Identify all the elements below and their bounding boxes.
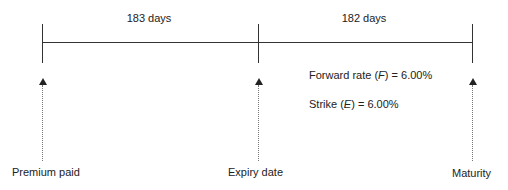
strike-label: Strike (E) = 6.00%	[309, 98, 399, 110]
point-label-expiry: Expiry date	[228, 166, 283, 178]
tick-start	[42, 24, 43, 63]
arrow-up-icon	[38, 78, 47, 161]
tick-maturity	[472, 24, 473, 63]
tick-expiry	[258, 24, 259, 63]
point-label-premium: Premium paid	[12, 166, 80, 178]
arrow-up-icon	[254, 78, 263, 161]
forward-rate-label: Forward rate (F) = 6.00%	[309, 69, 432, 81]
period-label-1: 183 days	[127, 12, 172, 24]
period-label-2: 182 days	[342, 12, 387, 24]
point-label-maturity: Maturity	[452, 167, 491, 179]
arrow-up-icon	[468, 78, 477, 161]
